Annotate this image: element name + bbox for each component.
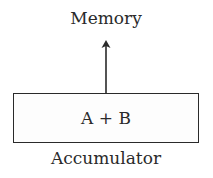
arrow-up-icon <box>100 40 112 94</box>
accumulator-box: A + B <box>13 93 199 143</box>
accumulator-label: Accumulator <box>51 148 161 168</box>
accumulator-expression: A + B <box>81 108 131 128</box>
memory-label: Memory <box>70 8 142 28</box>
